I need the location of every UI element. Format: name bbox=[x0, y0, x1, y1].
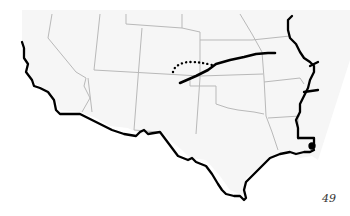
us-southwest-map bbox=[0, 0, 350, 216]
page-number: 49 bbox=[322, 192, 336, 205]
